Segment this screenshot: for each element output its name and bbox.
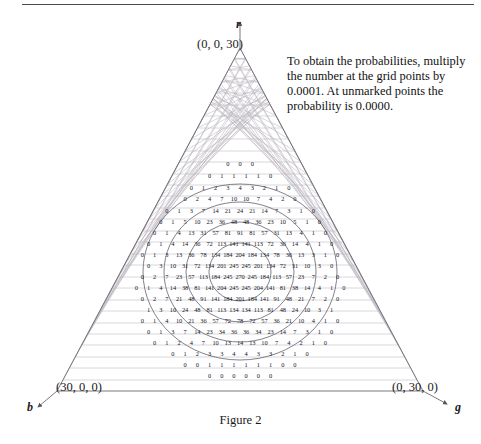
grid-value: 31 [292, 262, 298, 269]
grid-value: 1 [330, 284, 333, 291]
grid-value: 1 [324, 251, 327, 258]
grid-value: 0 [257, 372, 260, 379]
grid-value: 3 [306, 328, 309, 335]
grid-value: 4 [245, 350, 248, 357]
grid-value: 36 [219, 218, 225, 225]
grid-value: 14 [292, 240, 298, 247]
grid-value: 81 [280, 284, 286, 291]
grid-value: 0 [208, 172, 211, 179]
grid-value: 0 [281, 361, 284, 368]
grid-value: 1 [202, 184, 205, 191]
grid-value: 21 [225, 207, 231, 214]
grid-value: 0 [184, 195, 187, 202]
grid-value: 0 [293, 361, 296, 368]
grid-value: 0 [135, 284, 138, 291]
grid-value: 0 [306, 350, 309, 357]
grid-value: 3 [312, 251, 315, 258]
grid-value: 1 [147, 306, 150, 313]
grid-value: 10 [194, 218, 200, 225]
grid-value: 10 [170, 306, 176, 313]
grid-value: 134 [260, 251, 269, 258]
grid-value: 0 [190, 184, 193, 191]
grid-value: 0 [141, 251, 144, 258]
grid-value: 0 [153, 229, 156, 236]
grid-value: 134 [242, 306, 251, 313]
grid-value: 81 [249, 229, 255, 236]
grid-value: 1 [318, 240, 321, 247]
grid-value: 4 [171, 240, 174, 247]
grid-value: 3 [159, 306, 162, 313]
grid-value: 184 [260, 273, 269, 280]
grid-value: 13 [298, 251, 304, 258]
grid-value: 4 [232, 350, 235, 357]
grid-value: 0 [153, 339, 156, 346]
grid-value: 4 [238, 184, 241, 191]
grid-value: 1 [220, 361, 223, 368]
grid-value: 1 [306, 218, 309, 225]
grid-value: 4 [299, 229, 302, 236]
grid-value: 3 [257, 350, 260, 357]
grid-value: 14 [280, 328, 286, 335]
grid-value: 4 [306, 240, 309, 247]
grid-value: 0 [184, 361, 187, 368]
grid-value: 1 [312, 229, 315, 236]
grid-value: 91 [274, 295, 280, 302]
grid-value: 204 [235, 251, 244, 258]
grid-value: 2 [281, 350, 284, 357]
grid-value: 1 [312, 339, 315, 346]
grid-value: 4 [312, 317, 315, 324]
grid-value: 4 [190, 339, 193, 346]
grid-value: 134 [266, 262, 275, 269]
grid-value: 245 [223, 273, 232, 280]
grid-value: 5 [184, 218, 187, 225]
grid-value: 2 [153, 273, 156, 280]
grid-value: 0 [208, 372, 211, 379]
grid-value: 7 [275, 339, 278, 346]
grid-value: 34 [219, 328, 225, 335]
grid-value: 48 [231, 218, 237, 225]
grid-value: 113 [254, 306, 263, 313]
grid-value: 1 [318, 328, 321, 335]
grid-value: 72 [280, 262, 286, 269]
grid-value: 14 [182, 240, 188, 247]
grid-value: 78 [274, 251, 280, 258]
grid-value: 0 [141, 295, 144, 302]
grid-value: 1 [184, 350, 187, 357]
grid-value: 1 [147, 284, 150, 291]
right-corner-coordinate-label: (0, 30, 0) [392, 381, 438, 394]
grid-value: 0 [330, 240, 333, 247]
grid-value: 141 [229, 240, 238, 247]
grid-value: 57 [188, 273, 194, 280]
grid-value: 1 [159, 240, 162, 247]
grid-value: 1 [330, 306, 333, 313]
grid-value: 0 [336, 295, 339, 302]
grid-value: 0 [269, 172, 272, 179]
grid-value: 3 [318, 306, 321, 313]
grid-value: 201 [254, 262, 263, 269]
grid-value: 1 [245, 172, 248, 179]
grid-value: 0 [226, 160, 229, 167]
grid-value: 1 [232, 172, 235, 179]
grid-value: 113 [217, 306, 226, 313]
grid-value: 21 [188, 317, 194, 324]
grid-value: 0 [287, 184, 290, 191]
grid-value: 23 [206, 328, 212, 335]
grid-value: 48 [243, 218, 249, 225]
grid-value: 0 [330, 262, 333, 269]
grid-value: 2 [153, 295, 156, 302]
grid-value: 141 [205, 284, 214, 291]
grid-value: 0 [269, 372, 272, 379]
grid-value: 113 [199, 273, 208, 280]
grid-value: 7 [220, 195, 223, 202]
grid-value: 31 [274, 229, 280, 236]
grid-value: 23 [267, 218, 273, 225]
grid-value: 0 [147, 328, 150, 335]
grid-value: 0 [147, 262, 150, 269]
grid-value: 0 [220, 372, 223, 379]
grid-value: 81 [225, 229, 231, 236]
grid-value: 201 [217, 262, 226, 269]
grid-value: 0 [251, 160, 254, 167]
grid-value: 7 [312, 295, 315, 302]
grid-value: 2 [281, 195, 284, 202]
grid-value: 141 [266, 284, 275, 291]
